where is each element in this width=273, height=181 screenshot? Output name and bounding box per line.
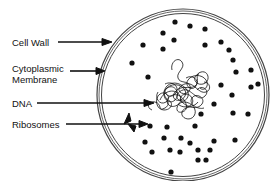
pointer-arrows xyxy=(37,39,154,133)
ribosome-dot xyxy=(203,157,208,162)
ribosome-dot xyxy=(202,42,207,47)
ribosome-dot xyxy=(177,149,182,154)
ribosome-dot xyxy=(248,67,253,72)
label-cell-wall: Cell Wall xyxy=(12,37,49,48)
ribosome-dot xyxy=(229,92,234,97)
ribosome-dot xyxy=(195,157,200,162)
ribosome-dot xyxy=(195,147,200,152)
cell-illustration xyxy=(0,0,273,181)
ribosome-dot xyxy=(232,137,237,142)
ribosome-dot xyxy=(160,46,165,51)
ribosome-dot xyxy=(198,111,203,116)
ribosome-dot xyxy=(140,42,145,47)
ribosome-dot xyxy=(230,57,235,62)
ribosome-dot xyxy=(187,23,192,28)
ribosome-dot xyxy=(211,138,216,143)
label-cytoplasmic-membrane-line1: Cytoplasmic xyxy=(12,63,64,74)
ribosome-dot xyxy=(172,19,177,24)
ribosome-dot xyxy=(218,39,223,44)
label-ribosomes: Ribosomes xyxy=(12,119,60,130)
ribosome-dot xyxy=(211,101,216,106)
ribosomes-arrows xyxy=(66,113,148,132)
cytoplasmic-membrane-arrow xyxy=(70,68,105,75)
ribosome-dot xyxy=(207,147,212,152)
ribosome-dot xyxy=(187,140,192,145)
ribosome-dot xyxy=(149,149,154,154)
label-cytoplasmic-membrane-line2: Membrane xyxy=(12,74,57,85)
dna-arrow xyxy=(37,100,154,107)
ribosome-dot xyxy=(145,74,150,79)
ribosome-dot xyxy=(255,81,260,86)
ribosome-dot xyxy=(168,169,173,174)
ribosome-dot xyxy=(171,37,176,42)
ribosome-dot xyxy=(230,110,235,115)
ribosomes xyxy=(129,19,260,174)
ribosome-dot xyxy=(202,26,207,31)
bacterial-cell-diagram: Cell Wall Cytoplasmic Membrane DNA Ribos… xyxy=(0,0,273,181)
label-dna: DNA xyxy=(12,98,32,109)
ribosome-dot xyxy=(160,30,165,35)
ribosome-dot xyxy=(226,47,231,52)
ribosome-dot xyxy=(233,69,238,74)
ribosome-dot xyxy=(192,123,197,128)
ribosome-dot xyxy=(178,135,183,140)
dna-nucleoid xyxy=(148,60,209,119)
ribosome-dot xyxy=(129,60,134,65)
ribosome-dot xyxy=(164,124,169,129)
ribosome-dot xyxy=(161,135,166,140)
cell-wall-arrow xyxy=(58,39,112,46)
ribosome-dot xyxy=(248,84,253,89)
ribosome-dot xyxy=(142,139,147,144)
ribosome-dot xyxy=(245,111,250,116)
ribosome-dot xyxy=(218,82,223,87)
ribosome-dot xyxy=(167,147,172,152)
